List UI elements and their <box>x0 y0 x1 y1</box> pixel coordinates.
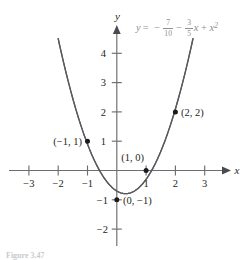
y-tick-label-1: 1 <box>101 136 106 147</box>
y-tick-label--1: −1 <box>97 195 108 206</box>
figure-caption: Figure 3.47 <box>6 251 45 260</box>
graph-plot: −3 −2 −1 1 2 3 4 3 2 1 −1 −2 x y (−1, 1)… <box>0 0 251 260</box>
equation-term2-sign: − <box>176 23 182 34</box>
x-tick-label--2: −2 <box>53 178 64 189</box>
fraction-denominator-10: 10 <box>163 30 173 39</box>
point-label-2-2: (2, 2) <box>181 107 204 119</box>
y-axis-arrow-icon <box>113 25 121 34</box>
point-label-1-0: (1, 0) <box>121 152 144 164</box>
y-tick-labels: 4 3 2 1 −1 −2 <box>97 48 108 235</box>
equation-fraction-3-5: 3 5 <box>185 19 193 38</box>
fraction-denominator-5: 5 <box>186 30 192 39</box>
equation-lhs: y <box>136 23 141 34</box>
equation-term3-exponent: 2 <box>214 22 218 29</box>
equation-term2-variable: x <box>194 23 199 34</box>
equation-term1-sign: − <box>154 23 160 34</box>
x-tick-label-1: 1 <box>143 178 148 189</box>
equation-fraction-7-10: 7 10 <box>163 19 173 38</box>
x-tick-label-2: 2 <box>173 178 178 189</box>
fraction-numerator-3: 3 <box>186 19 192 28</box>
x-axis-label: x <box>234 164 240 176</box>
figure-container: −3 −2 −1 1 2 3 4 3 2 1 −1 −2 x y (−1, 1)… <box>0 0 251 260</box>
x-axis-arrow-icon <box>222 167 231 175</box>
x-tick-label--3: −3 <box>23 178 34 189</box>
equation-annotation: y = − 7 10 − 3 5 x + x2 <box>136 19 218 38</box>
equation-term3-sign: + <box>201 23 207 34</box>
point-dot--1-1 <box>85 139 90 144</box>
x-tick-label--1: −1 <box>82 178 93 189</box>
y-axis-label: y <box>114 10 120 22</box>
point-label--1-1: (−1, 1) <box>53 136 82 148</box>
y-tick-label-4: 4 <box>101 48 107 59</box>
y-axis <box>113 25 121 246</box>
x-tick-labels: −3 −2 −1 1 2 3 <box>23 178 207 189</box>
y-tick-label-3: 3 <box>101 77 106 88</box>
x-axis <box>9 167 231 175</box>
point-label-0--1: (0, −1) <box>123 195 152 207</box>
point-dot-1-0 <box>144 168 149 173</box>
y-tick-label--2: −2 <box>97 224 108 235</box>
equation-equals-sign: = <box>143 23 149 34</box>
x-tick-label-3: 3 <box>202 178 207 189</box>
y-tick-label-2: 2 <box>101 107 106 118</box>
point-dot-0--1 <box>114 197 119 202</box>
point-dot-2-2 <box>173 109 178 114</box>
fraction-numerator-7: 7 <box>165 19 171 28</box>
